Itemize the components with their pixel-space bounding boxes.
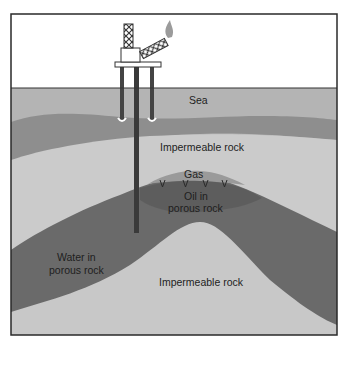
sky <box>11 14 337 88</box>
platform-deck <box>115 62 161 67</box>
label-water-line2: porous rock <box>49 264 105 276</box>
oil-trap-diagram: Sea Impermeable rock Gas Oil in porous r… <box>0 0 347 366</box>
well-pipe <box>134 66 139 233</box>
label-sea: Sea <box>189 94 208 106</box>
platform-leg-right <box>150 66 154 120</box>
label-impermeable-rock-top: Impermeable rock <box>160 141 245 153</box>
label-oil-line1: Oil in <box>184 190 208 202</box>
platform-module <box>121 48 140 62</box>
diagram-frame: Sea Impermeable rock Gas Oil in porous r… <box>0 0 347 366</box>
platform-leg-left <box>120 66 124 120</box>
label-gas: Gas <box>184 168 203 180</box>
label-impermeable-rock-bottom: Impermeable rock <box>159 276 244 288</box>
label-water-line1: Water in <box>57 251 96 263</box>
derrick-tower <box>124 24 133 48</box>
label-oil-line2: porous rock <box>168 202 224 214</box>
